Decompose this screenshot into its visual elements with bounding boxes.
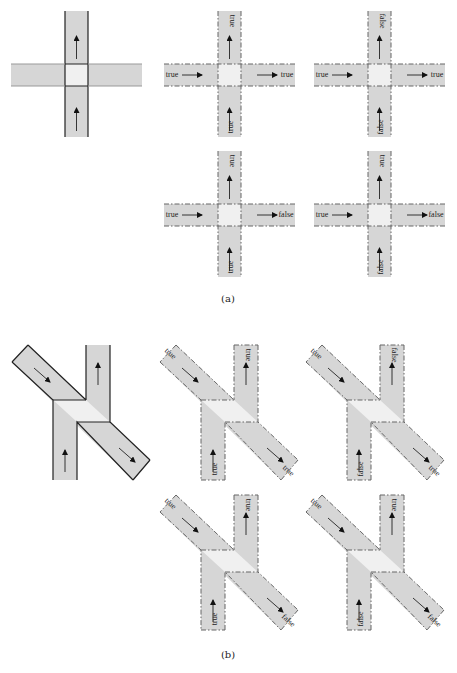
signal-label: true (166, 210, 179, 219)
signal-label: true (244, 349, 253, 362)
signal-label: true (281, 70, 294, 79)
intersection-cell (218, 204, 241, 226)
intersection-cell (65, 64, 88, 86)
cross-tt-tt: truetruetruetrue (164, 11, 295, 137)
n-tt-tt: truetruetruetrue (160, 345, 298, 480)
signal-label: true (431, 70, 444, 79)
figure-canvas: truetruetruetruetruetruefalsefalsetruefa… (0, 0, 457, 673)
signal-label: true (390, 499, 399, 512)
signal-label: false (376, 259, 385, 275)
intersection-cell (368, 204, 391, 226)
cross-tf-tt: truefalsetruetrue (164, 151, 295, 277)
intersection-cell (368, 64, 391, 86)
signal-label: true (228, 155, 237, 168)
signal-label: true (316, 70, 329, 79)
signal-label: false (376, 119, 385, 135)
cross-base (11, 11, 142, 137)
caption-a: (a) (221, 293, 235, 304)
signal-label: false (390, 347, 399, 363)
n-tf-ft: truefalsetruefalse (306, 495, 444, 630)
signal-label: true (210, 462, 219, 475)
signal-label: true (226, 120, 235, 133)
caption-b: (b) (221, 649, 235, 660)
n-tt-ff: truetruefalsefalse (306, 345, 444, 480)
cross-tt-ff: truetruefalsefalse (314, 11, 445, 137)
signal-label: false (428, 210, 444, 219)
intersection-cell (218, 64, 241, 86)
signal-label: true (378, 155, 387, 168)
n-tf-tt: truefalsetruetrue (160, 495, 298, 630)
signal-label: true (316, 210, 329, 219)
n-base (12, 345, 150, 480)
signal-label: true (166, 70, 179, 79)
signal-label: false (356, 611, 365, 627)
signal-label: true (226, 260, 235, 273)
signal-label: true (244, 499, 253, 512)
signal-label: false (378, 13, 387, 29)
cross-tf-ft: truefalsetruefalse (314, 151, 445, 277)
signal-label: false (278, 210, 294, 219)
signal-label: true (210, 612, 219, 625)
signal-label: false (356, 461, 365, 477)
signal-label: true (228, 15, 237, 28)
